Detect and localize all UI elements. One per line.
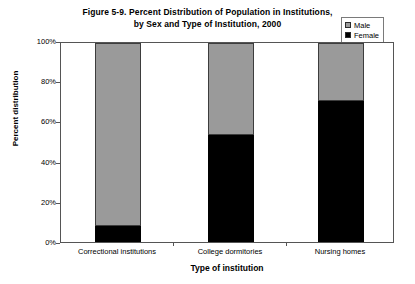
x-tick-label: College dormitories [198,247,263,257]
bar-correctional-institutions [95,43,141,242]
bar-segment-female [95,226,141,242]
y-tick-label: 100% [26,38,56,46]
legend-label-male: Male [354,21,370,30]
plot-area [60,42,394,243]
y-axis-title: Percent distribution [11,34,20,184]
bar-segment-female [318,101,364,242]
bar-college-dormitories [208,43,254,242]
y-tick-label: 60% [26,118,56,126]
bar-segment-male [208,43,254,135]
y-tick-label: 0% [26,239,56,247]
legend-label-female: Female [354,31,379,40]
x-tick-mark [173,243,174,246]
bar-segment-male [318,43,364,101]
legend-swatch-female-icon [345,32,351,38]
bar-nursing-homes [318,43,364,242]
x-axis-title: Type of institution [60,263,394,273]
x-tick-label: Correctional institutions [78,247,156,257]
y-tick-label: 40% [26,159,56,167]
x-tick-mark [286,243,287,246]
y-tick-label: 20% [26,199,56,207]
chart-legend: Male Female [341,17,384,43]
y-tick-label: 80% [26,78,56,86]
x-axis-labels: Correctional institutionsCollege dormito… [60,247,394,261]
legend-item-female: Female [345,30,379,40]
x-tick-label: Nursing homes [315,247,365,257]
bar-segment-male [95,43,141,226]
y-axis: 0%20%40%60%80%100% [22,42,56,243]
bar-segment-female [208,135,254,242]
legend-item-male: Male [345,20,379,30]
legend-swatch-male-icon [345,22,351,28]
